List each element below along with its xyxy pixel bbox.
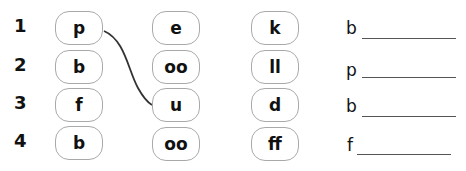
answer-prefix: b (346, 18, 357, 38)
letter-box[interactable]: u (152, 88, 200, 122)
answer-blank[interactable] (362, 116, 456, 117)
letter-box[interactable]: ff (251, 127, 299, 161)
answer-blank[interactable] (357, 154, 451, 155)
letter-box[interactable]: f (55, 88, 103, 122)
answer-prefix: f (347, 135, 353, 155)
letter-box[interactable]: p (55, 11, 103, 45)
letter-box[interactable]: oo (152, 127, 200, 161)
letter-box[interactable]: d (251, 88, 299, 122)
letter-box[interactable]: k (251, 11, 299, 45)
row-number: 2 (14, 55, 30, 75)
answer-blank[interactable] (362, 38, 456, 39)
connector-p-to-u (104, 31, 152, 105)
answer-blank[interactable] (362, 77, 456, 78)
letter-box[interactable]: ll (251, 50, 299, 84)
letter-box[interactable]: b (55, 50, 103, 84)
row-number: 1 (14, 16, 30, 36)
answer-prefix: p (346, 60, 357, 80)
letter-box[interactable]: oo (152, 50, 200, 84)
answer-prefix: b (346, 96, 357, 116)
letter-box[interactable]: e (152, 11, 200, 45)
row-number: 4 (14, 131, 30, 151)
row-number: 3 (14, 93, 30, 113)
letter-box[interactable]: b (55, 126, 103, 160)
